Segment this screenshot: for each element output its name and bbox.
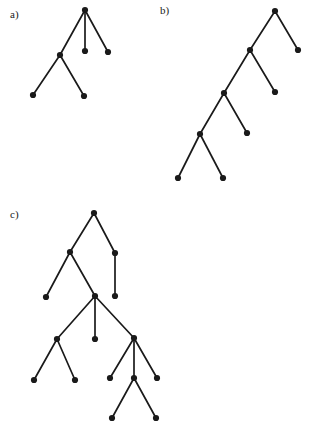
tree-node-leaf [153, 415, 159, 421]
tree-node-leaf [154, 375, 160, 381]
tree-node-internal [67, 249, 73, 255]
tree-node-leaf [107, 375, 113, 381]
tree-edge [112, 378, 134, 418]
tree-edge [70, 252, 95, 296]
tree-node-leaf [109, 415, 115, 421]
tree-panel-c: c) [10, 208, 160, 421]
tree-node-internal [112, 250, 118, 256]
tree-edge [178, 134, 200, 178]
tree-edges-a [33, 10, 108, 96]
tree-node-leaf [72, 377, 78, 383]
tree-node-leaf [92, 336, 98, 342]
tree-node-leaf [175, 175, 181, 181]
tree-edge [224, 50, 250, 93]
tree-edge [34, 339, 57, 380]
tree-node-leaf [82, 48, 88, 54]
tree-edge [85, 10, 108, 52]
tree-panel-a: a) [10, 7, 111, 99]
tree-edge [200, 93, 224, 134]
tree-node-root [91, 210, 97, 216]
tree-node-internal [54, 336, 60, 342]
tree-node-leaf [81, 93, 87, 99]
tree-node-internal [131, 375, 137, 381]
panels-layer: a)b)c) [10, 4, 301, 421]
tree-nodes-a [30, 7, 111, 99]
tree-node-leaf [272, 89, 278, 95]
tree-edge [200, 134, 223, 178]
tree-edge [134, 338, 157, 378]
tree-edge [95, 296, 134, 338]
tree-edge [33, 55, 60, 95]
tree-edge [60, 10, 85, 55]
tree-edge [110, 338, 134, 378]
tree-edge [94, 213, 115, 253]
tree-node-internal [57, 52, 63, 58]
tree-edge [46, 252, 70, 297]
tree-edge [70, 213, 94, 252]
tree-edge [224, 93, 247, 133]
tree-node-internal [247, 47, 253, 53]
tree-edge [250, 50, 275, 92]
tree-node-root [82, 7, 88, 13]
tree-node-leaf [220, 175, 226, 181]
tree-diagram-figure: a)b)c) [0, 0, 310, 433]
tree-node-internal [221, 90, 227, 96]
tree-edge [57, 339, 75, 380]
panel-label-b: b) [160, 4, 170, 17]
tree-node-internal [92, 293, 98, 299]
tree-nodes-b [175, 8, 301, 181]
tree-node-leaf [30, 92, 36, 98]
tree-edge [134, 378, 156, 418]
tree-node-leaf [244, 130, 250, 136]
tree-edge [57, 296, 95, 339]
tree-node-leaf [112, 293, 118, 299]
tree-node-leaf [43, 294, 49, 300]
tree-node-internal [197, 131, 203, 137]
tree-node-leaf [295, 47, 301, 53]
tree-panel-b: b) [160, 4, 301, 181]
tree-node-internal [131, 335, 137, 341]
tree-edges-c [34, 213, 157, 418]
tree-edge [250, 11, 275, 50]
tree-node-leaf [105, 49, 111, 55]
tree-node-root [272, 8, 278, 14]
panel-label-a: a) [10, 8, 19, 21]
tree-edge [275, 11, 298, 50]
tree-node-leaf [31, 377, 37, 383]
panel-label-c: c) [10, 208, 19, 221]
tree-edges-b [178, 11, 298, 178]
tree-edge [60, 55, 84, 96]
